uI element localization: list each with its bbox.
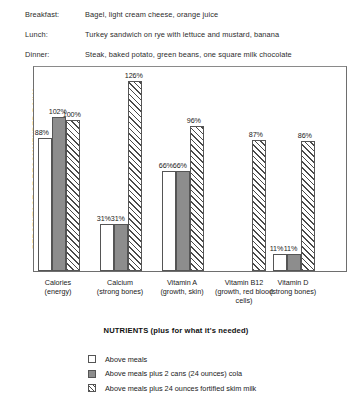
legend-swatch-empty-icon	[88, 355, 96, 363]
bar-2-0	[162, 171, 176, 271]
x-tick-line: Vitamin D	[257, 278, 329, 287]
meal-description: Bagel, light cream cheese, orange juice	[85, 10, 352, 19]
bar-value-label: 66%	[173, 161, 187, 170]
bar-1-0	[100, 224, 114, 271]
bar-2-2	[190, 126, 204, 271]
bar-3-2	[252, 140, 266, 271]
x-axis-tick-labels: Calories(energy)Calcium(strong bones)Vit…	[33, 276, 347, 310]
meal-label: Breakfast:	[0, 10, 85, 19]
legend-swatch-solid-gray-icon	[88, 370, 96, 378]
y-axis-title-wrap: PERCENTAGE OF RECOMMENDED DAILY REQUIREM…	[0, 60, 22, 280]
meal-label: Lunch:	[0, 30, 85, 39]
bar-0-2	[66, 120, 80, 271]
nutrition-chart-page: Breakfast: Bagel, light cream cheese, or…	[0, 0, 352, 400]
bar-value-label: 88%	[35, 128, 49, 137]
x-tick-label-4: Vitamin D(strong bones)	[257, 278, 329, 296]
bar-value-label: 11%	[284, 244, 298, 253]
legend-swatch-hatched-icon	[88, 384, 96, 392]
meal-row: Lunch: Turkey sandwich on rye with lettu…	[0, 30, 352, 50]
meal-description: Turkey sandwich on rye with lettuce and …	[85, 30, 352, 39]
bar-value-label: 66%	[159, 161, 173, 170]
meals-list: Breakfast: Bagel, light cream cheese, or…	[0, 10, 352, 70]
meal-description: Steak, baked potato, green beans, one sq…	[85, 50, 352, 59]
bar-4-0	[273, 254, 287, 271]
legend-item: Above meals	[88, 352, 348, 367]
legend-label: Above meals	[105, 355, 147, 364]
legend-item: Above meals plus 24 ounces fortified ski…	[88, 381, 348, 396]
x-tick-line: cells)	[208, 296, 280, 305]
chart-plot-area: 88%31%66%11%102%31%66%11%100%126%96%87%8…	[33, 66, 347, 272]
bar-4-1	[287, 254, 301, 271]
bar-value-label: 31%	[111, 214, 125, 223]
chart-legend: Above meals Above meals plus 2 cans (24 …	[88, 352, 348, 396]
bar-0-0	[38, 138, 52, 271]
legend-label: Above meals plus 2 cans (24 ounces) cola	[105, 369, 242, 378]
x-tick-line: (strong bones)	[257, 287, 329, 296]
bar-value-label: 126%	[125, 71, 143, 80]
bar-1-2	[128, 81, 142, 271]
bar-value-label: 96%	[187, 116, 201, 125]
bar-value-label: 86%	[298, 131, 312, 140]
legend-item: Above meals plus 2 cans (24 ounces) cola	[88, 367, 348, 382]
meal-label: Dinner:	[0, 50, 85, 59]
bar-value-label: 31%	[97, 214, 111, 223]
bar-1-1	[114, 224, 128, 271]
bar-series-container: 88%31%66%11%102%31%66%11%100%126%96%87%8…	[34, 67, 346, 271]
bar-value-label: 87%	[249, 130, 263, 139]
bar-value-label: 100%	[63, 110, 81, 119]
bar-2-1	[176, 171, 190, 271]
meal-row: Breakfast: Bagel, light cream cheese, or…	[0, 10, 352, 30]
bar-0-1	[52, 117, 66, 271]
bar-4-2	[301, 141, 315, 271]
legend-label: Above meals plus 24 ounces fortified ski…	[105, 384, 256, 393]
x-axis-title: NUTRIENTS (plus for what it's needed)	[0, 326, 352, 335]
bar-value-label: 11%	[270, 244, 284, 253]
